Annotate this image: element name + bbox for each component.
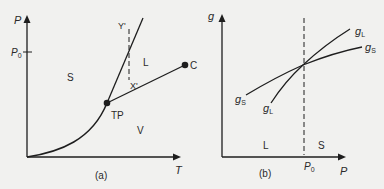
gibbs-solid-label-top: gS — [365, 41, 376, 54]
gibbs-axis-arrow-icon — [219, 14, 226, 22]
critical-point-marker — [182, 62, 189, 69]
solid-region-label: S — [67, 72, 74, 83]
pressure-axis-b-arrow-icon — [338, 154, 346, 161]
p0-label-b: P0 — [304, 161, 315, 173]
solid-region-label-b: S — [318, 140, 325, 151]
liquid-region-label-b: L — [263, 140, 269, 151]
liquid-region-label: L — [143, 57, 149, 68]
triple-point-label: TP — [111, 110, 124, 121]
sublimation-curve — [27, 103, 107, 157]
phase-diagram-figure: P P0 T S L V TP C Y' X' (a) g P P0 L S g… — [0, 0, 384, 189]
panel-b: g P P0 L S gL gL gS gS (b) — [208, 10, 376, 179]
gibbs-liquid-curve — [271, 29, 350, 103]
temperature-axis-label: T — [175, 164, 183, 176]
p0-label: P0 — [11, 47, 22, 59]
panel-a: P P0 T S L V TP C Y' X' (a) — [11, 14, 197, 181]
panel-b-caption: (b) — [259, 168, 271, 179]
gibbs-liquid-label-bottom: gL — [263, 102, 273, 115]
vapor-region-label: V — [137, 125, 144, 136]
vaporization-line — [107, 65, 185, 103]
pressure-axis-arrow-icon — [24, 15, 31, 23]
triple-point-marker — [104, 100, 111, 107]
pressure-axis-b-label: P — [340, 165, 348, 177]
panel-a-caption: (a) — [95, 170, 107, 181]
gibbs-axis-label: g — [208, 10, 215, 22]
critical-point-label: C — [190, 60, 197, 71]
pressure-axis-label: P — [14, 14, 22, 26]
point-x-label: X' — [130, 81, 138, 91]
gibbs-liquid-label-top: gL — [355, 25, 365, 38]
gibbs-solid-label-bottom: gS — [235, 93, 246, 106]
temperature-axis-arrow-icon — [173, 154, 181, 161]
point-y-label: Y' — [118, 21, 126, 31]
